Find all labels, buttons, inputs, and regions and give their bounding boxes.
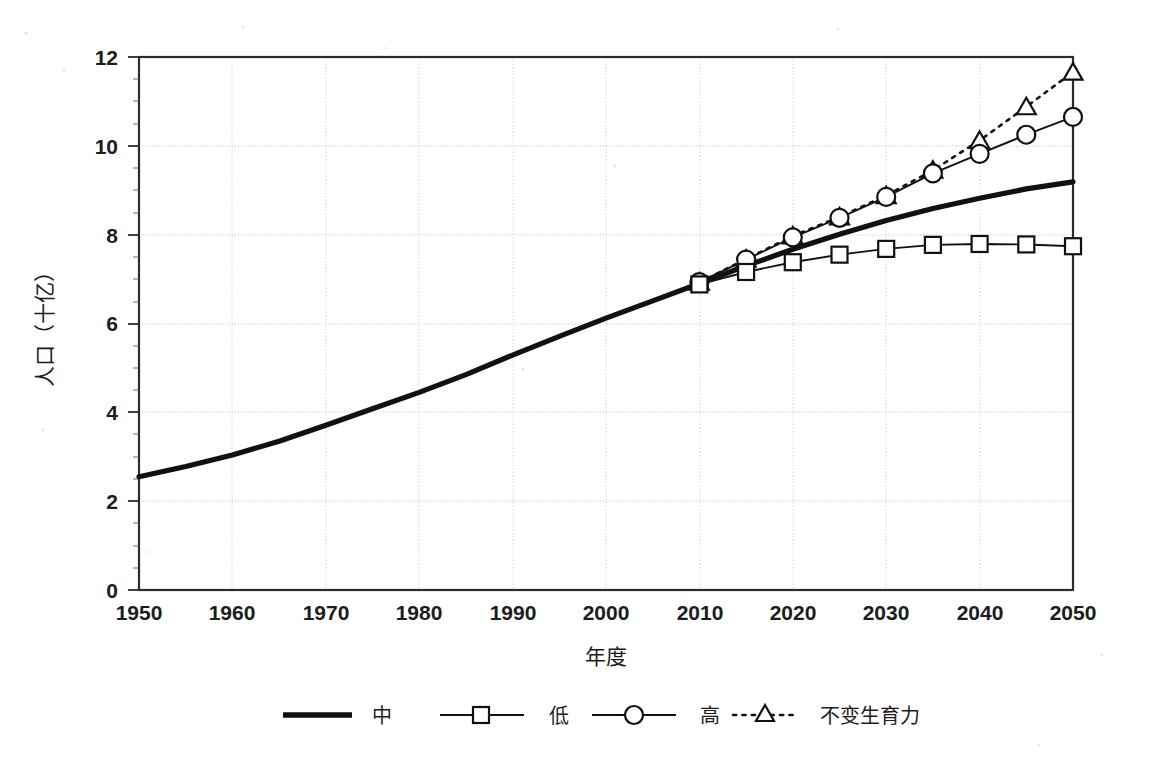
- data-point-square: [1065, 238, 1081, 254]
- x-tick-label: 2040: [957, 601, 1004, 624]
- legend-label-medium: 中: [372, 704, 392, 728]
- y-tick-label: 0: [106, 579, 118, 602]
- x-tick-label: 1990: [490, 601, 537, 624]
- data-point-circle: [784, 228, 802, 246]
- y-tick-label: 12: [95, 46, 118, 69]
- scan-artifacts: [24, 26, 1103, 747]
- y-tick-label: 4: [106, 401, 118, 424]
- data-point-square: [691, 276, 707, 292]
- x-tick-label: 1980: [396, 601, 443, 624]
- legend-item-low[interactable]: 低: [440, 704, 569, 728]
- population-projection-chart: 12 10 8 6 4 2 0 人口（十亿） 1950 1960 1970 19…: [0, 0, 1161, 773]
- series-markers-low: [691, 236, 1081, 292]
- y-axis-title: 人口（十亿）: [33, 261, 57, 387]
- y-tick-label: 8: [106, 224, 118, 247]
- legend-item-high[interactable]: 高: [592, 704, 720, 728]
- legend-label-constant-fertility: 不变生育力: [820, 704, 920, 728]
- x-tick-label: 2030: [863, 601, 910, 624]
- x-tick-label: 2010: [677, 601, 724, 624]
- circle-marker-icon: [625, 706, 643, 724]
- chart-legend: 中 低 高 不变生育力: [283, 704, 920, 728]
- data-point-square: [878, 241, 894, 257]
- legend-label-low: 低: [549, 704, 569, 728]
- data-point-triangle: [1017, 98, 1036, 115]
- data-point-circle: [971, 145, 989, 163]
- data-point-square: [738, 264, 754, 280]
- y-tick-label: 2: [106, 490, 118, 513]
- x-tick-label: 2050: [1050, 601, 1097, 624]
- data-point-square: [832, 247, 848, 263]
- y-axis-tick-labels: 12 10 8 6 4 2 0: [95, 46, 119, 602]
- data-point-square: [925, 237, 941, 253]
- x-tick-label: 1970: [303, 601, 350, 624]
- data-point-triangle: [1064, 63, 1083, 80]
- x-axis-tick-labels: 1950 1960 1970 1980 1990 2000 2010 2020 …: [116, 601, 1097, 624]
- square-marker-icon: [473, 707, 489, 723]
- legend-item-constant-fertility[interactable]: 不变生育力: [733, 704, 920, 728]
- triangle-marker-icon: [756, 705, 774, 721]
- horizontal-gridlines: [139, 146, 1073, 501]
- x-tick-label: 2020: [770, 601, 817, 624]
- data-point-square: [1018, 236, 1034, 252]
- x-tick-label: 1950: [116, 601, 163, 624]
- data-point-square: [785, 254, 801, 270]
- x-tick-label: 2000: [583, 601, 630, 624]
- data-point-circle: [1017, 126, 1035, 144]
- legend-label-high: 高: [700, 704, 720, 728]
- data-point-circle: [831, 209, 849, 227]
- y-axis-ticks: [128, 57, 139, 590]
- data-point-circle: [924, 164, 942, 182]
- legend-item-medium[interactable]: 中: [283, 704, 392, 728]
- data-point-circle: [1064, 108, 1082, 126]
- x-tick-label: 1960: [209, 601, 256, 624]
- data-point-circle: [877, 188, 895, 206]
- y-tick-label: 10: [95, 135, 118, 158]
- data-point-square: [972, 236, 988, 252]
- y-tick-label: 6: [106, 312, 118, 335]
- series-layer: [139, 63, 1083, 477]
- x-axis-title: 年度: [585, 645, 627, 669]
